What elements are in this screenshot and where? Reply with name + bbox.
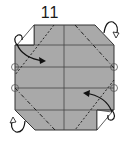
origami-diagram (0, 0, 126, 141)
arrowhead-icon (113, 32, 119, 38)
arrowhead-icon (10, 117, 16, 123)
